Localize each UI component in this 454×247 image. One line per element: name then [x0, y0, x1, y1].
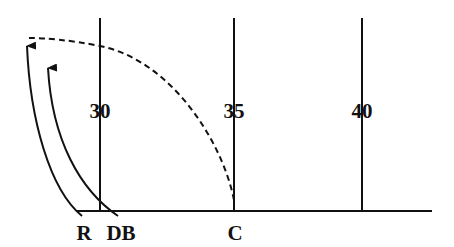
player-label-receiver: R	[76, 221, 92, 245]
player-label-center: C	[227, 221, 242, 245]
yard-number-35: 35	[224, 99, 245, 123]
yard-number-40: 40	[352, 99, 373, 123]
yard-number-30: 30	[90, 99, 111, 123]
receiver-route-arrow	[27, 46, 82, 216]
play-diagram: 30 35 40 R DB C	[0, 0, 454, 247]
pass-trajectory	[27, 38, 234, 200]
player-label-defensive-back: DB	[106, 221, 135, 245]
defensive-back-route-arrow	[48, 68, 118, 216]
